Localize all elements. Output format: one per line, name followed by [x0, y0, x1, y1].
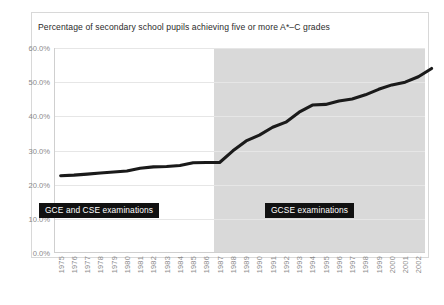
x-axis-tick-label: 1980: [123, 256, 132, 273]
x-axis-tick-label: 1991: [269, 256, 278, 273]
x-axis-tick-label: 1983: [163, 256, 172, 273]
x-axis-tick-label: 1984: [176, 256, 185, 273]
y-axis-tick-label: 40.0%: [16, 112, 50, 121]
x-axis-tick-label: 1986: [202, 256, 211, 273]
x-axis-tick-label: 1999: [375, 256, 384, 273]
x-axis-tick-label: 1989: [242, 256, 251, 273]
x-axis-tick-label: 1997: [348, 256, 357, 273]
x-axis-tick-label: 1993: [295, 256, 304, 273]
x-axis-tick-label: 1975: [57, 256, 66, 273]
x-axis-tick-label: 1990: [255, 256, 264, 273]
x-axis-tick-label: 2002: [414, 256, 423, 273]
y-axis-tick-label: 50.0%: [16, 78, 50, 87]
plot-area: [54, 48, 425, 253]
y-axis-tick-label: 0.0%: [16, 249, 50, 258]
x-axis-tick-label: 1981: [136, 256, 145, 273]
x-axis-tick-label: 1987: [216, 256, 225, 273]
x-axis-tick-label: 2000: [388, 256, 397, 273]
x-axis-tick-label: 1998: [361, 256, 370, 273]
x-axis-tick-labels: 1975197619771978197919801981198219831984…: [54, 256, 425, 302]
x-axis-tick-label: 1978: [96, 256, 105, 273]
x-axis-tick-label: 1977: [83, 256, 92, 273]
y-axis-tick-label: 60.0%: [16, 44, 50, 53]
y-axis-tick-label: 20.0%: [16, 180, 50, 189]
chart-title: Percentage of secondary school pupils ac…: [38, 22, 418, 32]
x-axis-tick-label: 1994: [308, 256, 317, 273]
x-axis-tick-label: 2001: [401, 256, 410, 273]
x-axis-tick-label: 1995: [322, 256, 331, 273]
series-line-five-or-more-ac: [54, 48, 425, 253]
x-axis-tick-label: 1992: [282, 256, 291, 273]
x-axis-tick-label: 1996: [335, 256, 344, 273]
x-axis-tick-label: 1988: [229, 256, 238, 273]
x-axis-tick-label: 1982: [149, 256, 158, 273]
x-axis-tick-label: 1979: [110, 256, 119, 273]
x-axis-tick-label: 1985: [189, 256, 198, 273]
annotation-gce-cse-examinations: GCE and CSE examinations: [39, 203, 159, 218]
x-axis-tick-label: 1976: [70, 256, 79, 273]
annotation-gcse-examinations: GCSE examinations: [265, 203, 354, 218]
y-axis-tick-labels: 60.0%50.0%40.0%30.0%20.0%10.0%0.0%: [14, 48, 50, 253]
chart-container: Percentage of secondary school pupils ac…: [0, 0, 444, 305]
y-axis-tick-label: 30.0%: [16, 146, 50, 155]
